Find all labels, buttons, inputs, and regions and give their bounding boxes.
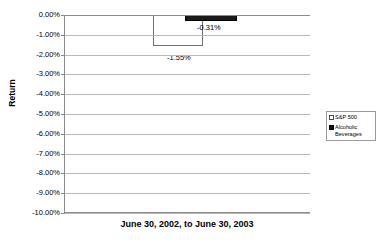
- gridline: [65, 173, 310, 174]
- y-axis-tick-label: -8.00%: [20, 169, 60, 177]
- legend-label-alcoholic-beverages: Alcoholic Beverages: [335, 124, 373, 137]
- legend-swatch-hollow-square-icon: [329, 115, 334, 120]
- gridline: [65, 213, 310, 214]
- y-axis-tick-label: -10.00%: [20, 209, 60, 217]
- x-axis-title: June 30, 2002, to June 30, 2003: [64, 219, 310, 229]
- bar-chart: Return 0.00%-1.00%-2.00%-3.00%-4.00%-5.0…: [0, 0, 385, 242]
- gridline: [65, 94, 310, 95]
- y-axis-tickmark: [61, 94, 65, 95]
- y-axis-tickmark: [61, 193, 65, 194]
- legend-item-sp500[interactable]: S&P 500: [329, 114, 373, 120]
- y-axis-tickmark: [61, 114, 65, 115]
- y-axis-tick-label: -9.00%: [20, 189, 60, 197]
- y-axis-tick-label: -1.00%: [20, 31, 60, 39]
- y-axis-tick-label: -2.00%: [20, 51, 60, 59]
- y-axis-tickmark: [61, 173, 65, 174]
- chart-legend: S&P 500 Alcoholic Beverages: [326, 111, 376, 141]
- legend-item-alcoholic-beverages[interactable]: Alcoholic Beverages: [329, 124, 373, 137]
- legend-label-sp500: S&P 500: [335, 114, 357, 120]
- gridline: [65, 154, 310, 155]
- y-axis-tickmark: [61, 15, 65, 16]
- y-axis-tickmark: [61, 35, 65, 36]
- gridline: [65, 15, 310, 16]
- gridline: [65, 55, 310, 56]
- y-axis-tick-label: -6.00%: [20, 130, 60, 138]
- gridline: [65, 35, 310, 36]
- gridline: [65, 193, 310, 194]
- gridline: [65, 114, 310, 115]
- gridline: [65, 74, 310, 75]
- y-axis-tickmark: [61, 74, 65, 75]
- y-axis-tickmark: [61, 213, 65, 214]
- bar-label-alcoholic-beverages: -0.31%: [197, 24, 221, 32]
- y-axis-tickmark: [61, 154, 65, 155]
- y-axis-tick-label: 0.00%: [20, 11, 60, 19]
- legend-swatch-filled-square-icon: [329, 125, 334, 130]
- y-axis-tickmark: [61, 134, 65, 135]
- y-axis-tick-label: -4.00%: [20, 90, 60, 98]
- y-axis-tick-label: -3.00%: [20, 70, 60, 78]
- y-axis-tick-labels: 0.00%-1.00%-2.00%-3.00%-4.00%-5.00%-6.00…: [20, 0, 60, 242]
- gridline: [65, 134, 310, 135]
- y-axis-tick-label: -5.00%: [20, 110, 60, 118]
- y-axis-title: Return: [7, 63, 17, 123]
- y-axis-tick-label: -7.00%: [20, 150, 60, 158]
- y-axis-tickmark: [61, 55, 65, 56]
- plot-area: -1.55%-0.31%: [64, 15, 310, 213]
